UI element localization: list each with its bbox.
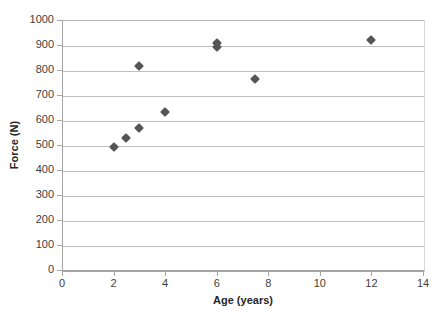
gridline — [63, 171, 424, 172]
x-tick-mark — [320, 271, 321, 276]
gridline — [63, 221, 424, 222]
x-tick-label: 4 — [150, 278, 180, 289]
scatter-chart: 01002003004005006007008009001000 0246810… — [0, 0, 442, 322]
gridline — [63, 46, 424, 47]
gridline — [63, 246, 424, 247]
gridline — [63, 121, 424, 122]
gridline — [63, 196, 424, 197]
x-axis-line — [62, 270, 424, 271]
x-axis-title: Age (years) — [62, 294, 424, 306]
x-tick-mark — [423, 271, 424, 276]
x-tick-label: 6 — [202, 278, 232, 289]
x-tick-mark — [268, 271, 269, 276]
y-axis-line — [62, 20, 63, 271]
x-tick-mark — [371, 271, 372, 276]
gridline — [63, 71, 424, 72]
x-tick-label: 14 — [408, 278, 438, 289]
x-tick-label: 2 — [99, 278, 129, 289]
y-axis-title: Force (N) — [8, 20, 22, 270]
x-tick-label: 8 — [253, 278, 283, 289]
x-tick-mark — [114, 271, 115, 276]
x-tick-mark — [165, 271, 166, 276]
x-tick-label: 10 — [305, 278, 335, 289]
x-tick-mark — [62, 271, 63, 276]
x-tick-label: 0 — [47, 278, 77, 289]
x-tick-mark — [217, 271, 218, 276]
gridline — [63, 96, 424, 97]
x-tick-label: 12 — [356, 278, 386, 289]
